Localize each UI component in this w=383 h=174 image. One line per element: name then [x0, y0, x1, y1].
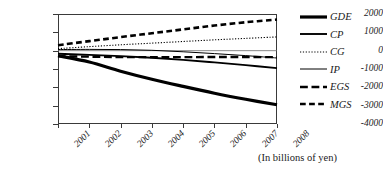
- legend-item-mgs[interactable]: MGS: [300, 96, 383, 114]
- x-tick-label: 2005: [198, 129, 218, 149]
- series-line-gde: [58, 56, 277, 105]
- series-layer: [58, 14, 277, 124]
- series-line-cg: [58, 37, 277, 49]
- chart-caption: (In billions of yen): [258, 152, 337, 163]
- legend-item-ip[interactable]: IP: [300, 61, 383, 79]
- legend-swatch-mgs: [300, 99, 327, 109]
- x-tick-mark: [183, 124, 184, 128]
- legend-swatch-ip: [300, 64, 327, 74]
- legend-swatch-gde: [300, 12, 327, 22]
- x-tick-label: 2006: [229, 129, 249, 149]
- x-tick-label: 2007: [260, 129, 280, 149]
- legend-label: IP: [330, 64, 340, 75]
- chart-legend: GDECPCGIPEGSMGS: [300, 8, 383, 113]
- x-tick-label: 2004: [166, 129, 186, 149]
- legend-swatch-cp: [300, 29, 327, 39]
- x-tick-mark: [152, 124, 153, 128]
- x-tick-label: 2001: [73, 129, 93, 149]
- legend-item-cg[interactable]: CG: [300, 43, 383, 61]
- x-tick-label: 2008: [292, 129, 312, 149]
- series-line-mgs: [58, 20, 277, 46]
- series-line-egs: [58, 56, 277, 57]
- legend-label: MGS: [330, 99, 352, 110]
- legend-swatch-egs: [300, 82, 327, 92]
- x-tick-mark: [277, 124, 278, 128]
- x-tick-mark: [121, 124, 122, 128]
- legend-item-cp[interactable]: CP: [300, 26, 383, 44]
- legend-item-egs[interactable]: EGS: [300, 78, 383, 96]
- legend-label: CG: [330, 46, 345, 57]
- legend-item-gde[interactable]: GDE: [300, 8, 383, 26]
- y-tick-label: -4000: [327, 119, 383, 129]
- x-tick-mark: [89, 124, 90, 128]
- x-tick-mark: [58, 124, 59, 128]
- x-tick-label: 2003: [135, 129, 155, 149]
- legend-label: EGS: [330, 81, 349, 92]
- legend-swatch-cg: [300, 47, 327, 57]
- line-chart: 200010000-1000-2000-3000-4000 2001200220…: [0, 0, 383, 174]
- x-tick-mark: [214, 124, 215, 128]
- x-tick-label: 2002: [104, 129, 124, 149]
- legend-label: CP: [330, 29, 343, 40]
- legend-label: GDE: [330, 11, 352, 22]
- x-tick-mark: [246, 124, 247, 128]
